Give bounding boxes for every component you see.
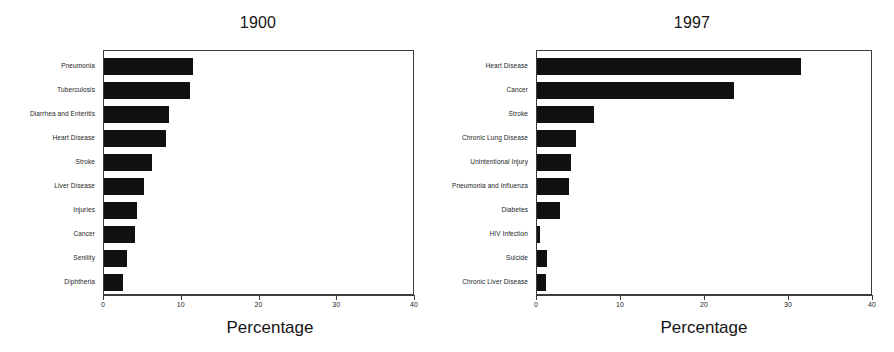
x-axis-tick bbox=[788, 295, 789, 300]
x-axis-tick-label: 30 bbox=[773, 301, 803, 308]
x-axis-tick-label: 10 bbox=[605, 301, 635, 308]
bar bbox=[537, 106, 594, 123]
category-label: Unintentional Injury bbox=[470, 158, 528, 166]
bar bbox=[104, 130, 166, 147]
x-axis-tick bbox=[704, 295, 705, 300]
x-axis-tick bbox=[181, 295, 182, 300]
bar bbox=[104, 202, 137, 219]
chart-panel-1997: 1997 Heart DiseaseCancerStrokeChronic Lu… bbox=[447, 0, 894, 352]
category-label: Diarrhea and Enteritis bbox=[30, 110, 95, 118]
chart-panel-1900: 1900 PneumoniaTuberculosisDiarrhea and E… bbox=[0, 0, 447, 352]
x-axis-tick-label: 0 bbox=[88, 301, 118, 308]
x-axis-tick-label: 20 bbox=[689, 301, 719, 308]
x-axis-tick bbox=[536, 295, 537, 300]
bar bbox=[104, 178, 144, 195]
category-label: Injuries bbox=[73, 206, 95, 214]
category-label: Chronic Lung Disease bbox=[462, 134, 528, 142]
category-label: Pneumonia bbox=[61, 62, 95, 70]
chart-title-1997: 1997 bbox=[602, 14, 782, 32]
category-label: Diphtheria bbox=[64, 278, 95, 286]
x-axis-tick-label: 40 bbox=[857, 301, 887, 308]
category-labels-1900: PneumoniaTuberculosisDiarrhea and Enteri… bbox=[0, 50, 99, 295]
x-axis-tick bbox=[259, 295, 260, 300]
category-label: Stroke bbox=[76, 158, 95, 166]
x-axis-tick-label: 30 bbox=[321, 301, 351, 308]
category-label: Senility bbox=[73, 254, 95, 262]
chart-title-1900: 1900 bbox=[178, 14, 338, 32]
category-label: Pneumonia and Influenza bbox=[452, 182, 528, 190]
bar bbox=[537, 130, 576, 147]
category-label: Cancer bbox=[73, 230, 95, 238]
x-axis-title-1997: Percentage bbox=[624, 318, 784, 338]
bar bbox=[537, 250, 547, 267]
category-label: Heart Disease bbox=[486, 62, 528, 70]
plot-area-1900 bbox=[103, 50, 414, 295]
category-label: HIV Infection bbox=[489, 230, 528, 238]
category-label: Heart Disease bbox=[53, 134, 95, 142]
bar bbox=[537, 202, 560, 219]
bar bbox=[104, 154, 152, 171]
category-label: Stroke bbox=[509, 110, 528, 118]
x-axis-tick bbox=[103, 295, 104, 300]
category-labels-1997: Heart DiseaseCancerStrokeChronic Lung Di… bbox=[447, 50, 532, 295]
bar bbox=[537, 226, 540, 243]
bar bbox=[104, 82, 190, 99]
x-axis-title-1900: Percentage bbox=[190, 318, 350, 338]
x-axis-tick bbox=[620, 295, 621, 300]
bar bbox=[537, 274, 546, 291]
x-axis-tick-label: 20 bbox=[244, 301, 274, 308]
figure-two-panel-bar-charts: 1900 PneumoniaTuberculosisDiarrhea and E… bbox=[0, 0, 894, 352]
x-axis-tick bbox=[872, 295, 873, 300]
category-label: Tuberculosis bbox=[57, 86, 95, 94]
bar bbox=[537, 154, 571, 171]
x-axis-tick bbox=[414, 295, 415, 300]
bar bbox=[104, 250, 127, 267]
bar bbox=[104, 226, 135, 243]
bar bbox=[537, 82, 734, 99]
bar bbox=[104, 106, 169, 123]
bars-container-1900 bbox=[104, 51, 413, 294]
x-axis-tick-label: 0 bbox=[521, 301, 551, 308]
category-label: Diabetes bbox=[502, 206, 528, 214]
category-label: Suicide bbox=[506, 254, 528, 262]
bar bbox=[104, 274, 123, 291]
category-label: Chronic Liver Disease bbox=[462, 278, 528, 286]
x-axis-tick-label: 40 bbox=[399, 301, 429, 308]
bars-container-1997 bbox=[537, 51, 871, 294]
bar bbox=[537, 58, 801, 75]
category-label: Liver Disease bbox=[54, 182, 95, 190]
category-label: Cancer bbox=[506, 86, 528, 94]
bar bbox=[537, 178, 569, 195]
x-axis-tick bbox=[336, 295, 337, 300]
bar bbox=[104, 58, 193, 75]
x-axis-tick-label: 10 bbox=[166, 301, 196, 308]
plot-area-1997 bbox=[536, 50, 872, 295]
